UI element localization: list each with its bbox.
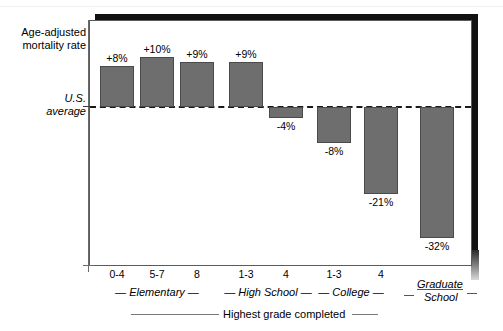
x-caption-rule-right — [352, 314, 378, 315]
x-axis-caption: Highest grade completed — [223, 308, 345, 320]
bar-college-1-3 — [317, 107, 351, 143]
bar-label-high-school-1-3: +9% — [228, 48, 264, 60]
baseline-label-line2: average — [46, 105, 86, 117]
scan-artifact — [0, 6, 503, 7]
group-rule-right-elementary: — — [185, 286, 199, 298]
group-label-college-text: College — [332, 286, 369, 298]
group-label-graduate-school-line2: School — [424, 291, 458, 303]
group-rule-top-graduate-school — [417, 289, 463, 290]
plot-shadow-fade — [471, 250, 479, 280]
bar-label-high-school-4: -4% — [269, 120, 303, 132]
bar-elementary-8 — [180, 62, 214, 107]
bar-elementary-5-7 — [140, 57, 174, 107]
group-label-college: — College — — [309, 286, 393, 298]
group-rule-right-college: — — [370, 286, 384, 298]
bar-graduate-school — [420, 107, 454, 238]
plot-shadow-right — [471, 14, 478, 272]
tick-label-college-1-3: 1-3 — [317, 268, 351, 280]
bar-high-school-4 — [269, 107, 303, 118]
tick-label-college-4: 4 — [364, 268, 398, 280]
group-rule-left-graduate-school — [404, 295, 414, 296]
baseline-label-line1: U.S. — [65, 92, 86, 104]
tick-label-elementary-5-7: 5-7 — [140, 268, 174, 280]
y-axis-line — [88, 20, 89, 272]
group-label-elementary: — Elementary — — [94, 286, 220, 298]
group-rule-left-elementary: — — [115, 286, 129, 298]
group-label-high-school: — High School — — [222, 286, 314, 298]
baseline-label: U.S. average — [6, 92, 86, 118]
bar-label-college-4: -21% — [362, 196, 400, 208]
group-rule-left-high-school: — — [224, 286, 238, 298]
chart-figure: Age-adjusted mortality rate U.S. average… — [0, 0, 503, 331]
tick-label-high-school-1-3: 1-3 — [229, 268, 263, 280]
bar-college-4 — [364, 107, 398, 194]
bar-high-school-1-3 — [229, 62, 263, 107]
y-axis-bottom-tick — [83, 265, 94, 266]
bar-elementary-0-4 — [100, 66, 134, 107]
tick-label-high-school-4: 4 — [269, 268, 303, 280]
tick-label-elementary-8: 8 — [180, 268, 214, 280]
bar-label-elementary-8: +9% — [179, 48, 215, 60]
x-caption-rule-left — [131, 314, 219, 315]
bar-label-elementary-0-4: +8% — [100, 52, 134, 64]
group-rule-left-college: — — [318, 286, 332, 298]
tick-label-elementary-0-4: 0-4 — [100, 268, 134, 280]
bar-label-college-1-3: -8% — [317, 145, 351, 157]
bar-label-elementary-5-7: +10% — [138, 43, 176, 55]
group-label-high-school-text: High School — [238, 286, 297, 298]
y-axis-title-line2: mortality rate — [22, 39, 86, 51]
y-axis-title: Age-adjusted mortality rate — [6, 26, 86, 52]
bar-label-graduate-school: -32% — [418, 240, 456, 252]
group-label-elementary-text: Elementary — [129, 286, 185, 298]
y-axis-title-line1: Age-adjusted — [21, 26, 86, 38]
group-rule-right-graduate-school — [467, 293, 477, 294]
